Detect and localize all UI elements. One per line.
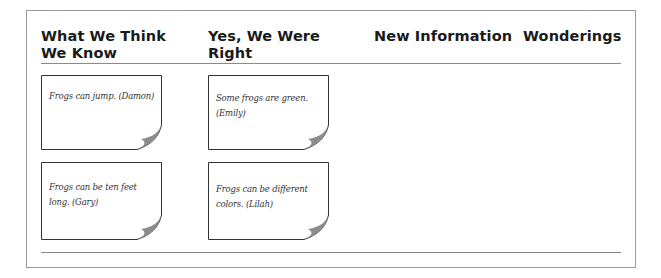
note-text: Frogs can jump. (Damon) [49, 89, 159, 104]
note-text: Frogs can be ten feet long. (Gary) [49, 180, 159, 210]
column-header-new-information: New Information [374, 28, 512, 45]
sticky-note: Frogs can jump. (Damon) [41, 75, 162, 150]
column-header-what-we-think-we-know: What We Think We Know [41, 28, 166, 62]
header-line: Wonderings [523, 28, 621, 45]
sticky-note-shape-icon [41, 75, 162, 150]
kwl-chart-frame: What We Think We Know Yes, We Were Right… [26, 10, 636, 268]
bottom-divider [41, 252, 621, 253]
header-line: We Know [41, 45, 166, 62]
column-header-yes-we-were-right: Yes, We Were Right [208, 28, 320, 62]
header-divider [41, 63, 621, 64]
note-text: Some frogs are green. (Emily) [216, 91, 311, 121]
note-text: Frogs can be different colors. (Lilah) [216, 182, 316, 212]
sticky-note: Some frogs are green. (Emily) [208, 75, 329, 150]
header-line: New Information [374, 28, 512, 45]
header-line: Right [208, 45, 320, 62]
header-line: What We Think [41, 28, 166, 45]
column-header-wonderings: Wonderings [523, 28, 621, 45]
sticky-note: Frogs can be different colors. (Lilah) [208, 162, 329, 237]
sticky-note: Frogs can be ten feet long. (Gary) [41, 162, 162, 237]
header-line: Yes, We Were [208, 28, 320, 45]
